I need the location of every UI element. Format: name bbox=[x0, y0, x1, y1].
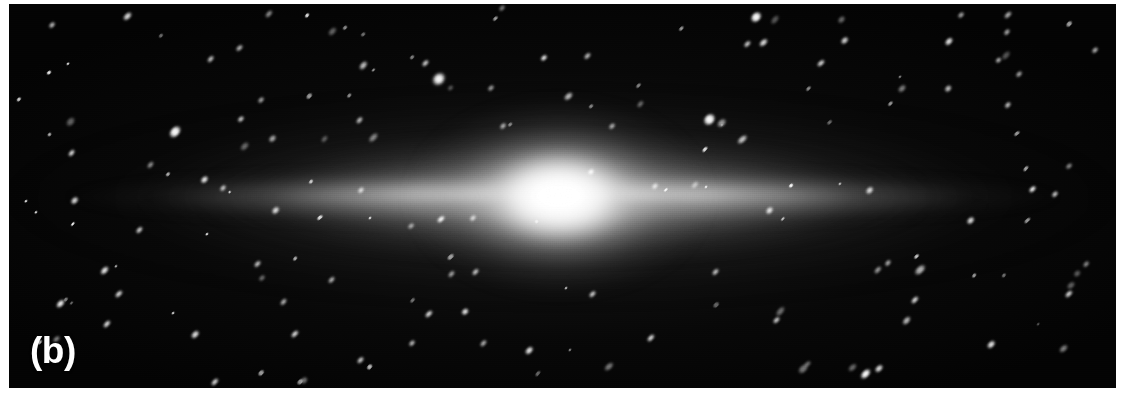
figure-root: (b) bbox=[0, 0, 1128, 403]
astronomy-image-plate: (b) bbox=[9, 4, 1116, 388]
sky-background bbox=[9, 4, 1116, 388]
panel-label: (b) bbox=[30, 332, 76, 369]
